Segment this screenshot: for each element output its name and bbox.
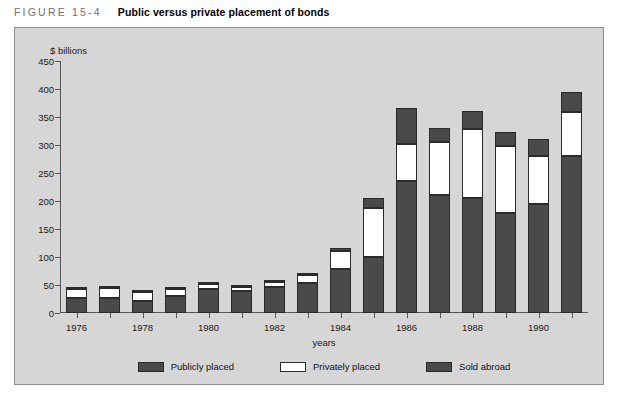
bar-segment-abr-1985 (363, 198, 385, 208)
figure-root: FIGURE 15-4 Public versus private placem… (0, 0, 621, 399)
y-axis-labels: 050100150200250300350400450 (22, 61, 54, 313)
bar-segment-pub-1988 (462, 198, 484, 313)
y-axis-line (60, 61, 61, 313)
x-tick-1979 (176, 313, 177, 318)
bar-1990 (528, 139, 550, 313)
figure-caption: FIGURE 15-4 Public versus private placem… (14, 6, 330, 18)
bar-1987 (429, 128, 451, 313)
bar-segment-priv-1983 (297, 275, 319, 283)
legend-label-sold-abroad: Sold abroad (459, 361, 510, 372)
bar-segment-pub-1981 (231, 291, 253, 313)
y-tick-label-300: 300 (24, 140, 54, 151)
x-tick-1980 (209, 313, 210, 318)
bar-segment-priv-1980 (198, 284, 220, 289)
chart-panel: $ billions 050100150200250300350400450 1… (14, 27, 604, 385)
bar-segment-priv-1986 (396, 144, 418, 180)
x-tick-1988 (473, 313, 474, 318)
x-tick-label-1976: 1976 (66, 322, 87, 333)
bar-segment-abr-1983 (297, 273, 319, 275)
y-tick-400 (55, 89, 60, 90)
bar-segment-pub-1989 (495, 213, 517, 313)
bar-1985 (363, 198, 385, 313)
legend-swatch-icon-publicly-placed (138, 362, 164, 372)
y-axis-unit-label: $ billions (50, 45, 87, 56)
y-tick-label-100: 100 (24, 252, 54, 263)
y-tick-label-0: 0 (24, 308, 54, 319)
y-tick-0 (55, 313, 60, 314)
y-tick-label-150: 150 (24, 224, 54, 235)
bar-1983 (297, 273, 319, 313)
x-tick-1978 (143, 313, 144, 318)
bar-segment-pub-1991 (561, 156, 583, 313)
bar-segment-abr-1991 (561, 92, 583, 112)
bar-segment-pub-1990 (528, 204, 550, 313)
bar-segment-abr-1988 (462, 111, 484, 129)
x-tick-1986 (407, 313, 408, 318)
bar-segment-priv-1987 (429, 142, 451, 195)
y-tick-150 (55, 229, 60, 230)
chart-panel-inner: $ billions 050100150200250300350400450 1… (15, 28, 603, 384)
bar-1976 (66, 288, 88, 313)
x-tick-1981 (242, 313, 243, 318)
x-tick-1989 (506, 313, 507, 318)
legend-label-privately-placed: Privately placed (313, 361, 380, 372)
bar-segment-abr-1984 (330, 248, 352, 251)
x-tick-label-1984: 1984 (330, 322, 351, 333)
bar-segment-pub-1987 (429, 195, 451, 313)
bar-segment-abr-1986 (396, 108, 418, 144)
x-tick-label-1980: 1980 (198, 322, 219, 333)
bar-segment-pub-1979 (165, 296, 187, 313)
bar-1984 (330, 248, 352, 313)
bar-segment-abr-1978 (132, 290, 154, 292)
y-tick-label-200: 200 (24, 196, 54, 207)
legend-item-sold-abroad: Sold abroad (426, 361, 510, 372)
bar-segment-pub-1986 (396, 181, 418, 313)
y-tick-100 (55, 257, 60, 258)
bar-segment-priv-1982 (264, 282, 286, 286)
chart-legend: Publicly placed Privately placed Sold ab… (60, 361, 588, 372)
y-tick-label-50: 50 (24, 280, 54, 291)
x-tick-1983 (308, 313, 309, 318)
bar-segment-abr-1989 (495, 132, 517, 146)
bar-segment-priv-1976 (66, 289, 88, 298)
y-tick-50 (55, 285, 60, 286)
bar-segment-abr-1982 (264, 280, 286, 282)
y-tick-350 (55, 117, 60, 118)
bar-1981 (231, 286, 253, 313)
y-tick-label-350: 350 (24, 112, 54, 123)
bar-segment-priv-1985 (363, 208, 385, 257)
x-tick-label-1986: 1986 (396, 322, 417, 333)
bar-segment-priv-1988 (462, 129, 484, 198)
plot-area: $ billions 050100150200250300350400450 1… (60, 61, 588, 313)
bar-1979 (165, 288, 187, 313)
legend-item-privately-placed: Privately placed (280, 361, 380, 372)
y-tick-300 (55, 145, 60, 146)
bar-segment-pub-1984 (330, 269, 352, 313)
bar-segment-priv-1990 (528, 156, 550, 204)
figure-number: FIGURE 15-4 (14, 6, 102, 18)
bar-segment-abr-1979 (165, 287, 187, 289)
bar-segment-priv-1978 (132, 292, 154, 300)
x-tick-1984 (341, 313, 342, 318)
bar-segment-abr-1987 (429, 128, 451, 142)
y-tick-label-400: 400 (24, 84, 54, 95)
bar-segment-priv-1981 (231, 287, 253, 290)
legend-swatch-icon-sold-abroad (426, 362, 452, 372)
y-tick-200 (55, 201, 60, 202)
bar-segment-pub-1977 (99, 298, 121, 313)
x-axis-title: years (60, 337, 588, 348)
x-tick-1982 (275, 313, 276, 318)
bar-segment-pub-1976 (66, 298, 88, 313)
bar-segment-priv-1991 (561, 112, 583, 156)
x-tick-1977 (110, 313, 111, 318)
y-tick-label-250: 250 (24, 168, 54, 179)
bar-segment-priv-1984 (330, 251, 352, 269)
bar-1988 (462, 111, 484, 313)
bar-segment-abr-1977 (99, 286, 121, 288)
bar-segment-pub-1980 (198, 289, 220, 313)
x-tick-1991 (572, 313, 573, 318)
bar-segment-abr-1990 (528, 139, 550, 156)
x-tick-1985 (374, 313, 375, 318)
bar-1977 (99, 287, 121, 313)
bar-segment-pub-1983 (297, 283, 319, 313)
